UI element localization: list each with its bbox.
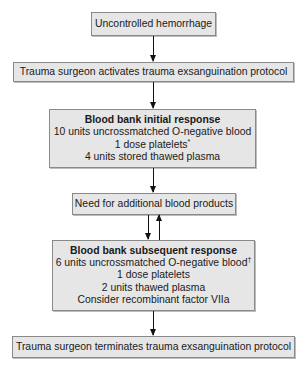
node-line-with-footnote: 1 dose platelets*: [115, 139, 191, 151]
arrow-down-5: [153, 311, 154, 335]
node-line: 1 dose platelets: [117, 269, 190, 281]
node-title: Blood bank subsequent response: [70, 245, 237, 257]
node-text: Need for additional blood products: [75, 198, 233, 210]
node-text: Uncontrolled hemorrhage: [95, 18, 212, 30]
node-activates-protocol: Trauma surgeon activates trauma exsangui…: [13, 62, 294, 82]
node-uncontrolled-hemorrhage: Uncontrolled hemorrhage: [91, 12, 216, 36]
node-initial-response: Blood bank initial response 10 units unc…: [49, 109, 256, 168]
node-need-additional: Need for additional blood products: [72, 193, 236, 215]
node-line: 2 units thawed plasma: [102, 282, 205, 294]
node-line-with-footnote: 6 units uncrossmatched O-negative blood†: [56, 257, 252, 269]
arrow-up-feedback: [159, 215, 160, 240]
node-title: Blood bank initial response: [85, 114, 221, 126]
arrow-down-4: [148, 215, 149, 239]
node-line: 4 units stored thawed plasma: [85, 151, 220, 163]
arrow-down-3: [153, 168, 154, 192]
arrow-down-2: [153, 82, 154, 108]
node-text: Trauma surgeon activates trauma exsangui…: [20, 66, 288, 78]
footnote-mark: †: [247, 256, 251, 263]
node-line: Consider recombinant factor VIIa: [78, 294, 230, 306]
footnote-mark: *: [188, 137, 191, 144]
node-text: Trauma surgeon terminates trauma exsangu…: [16, 341, 291, 353]
arrow-down-1: [153, 36, 154, 61]
node-line: 10 units uncrossmatched O-negative blood: [54, 126, 252, 138]
node-subsequent-response: Blood bank subsequent response 6 units u…: [52, 240, 255, 311]
node-terminates-protocol: Trauma surgeon terminates trauma exsangu…: [12, 336, 295, 358]
